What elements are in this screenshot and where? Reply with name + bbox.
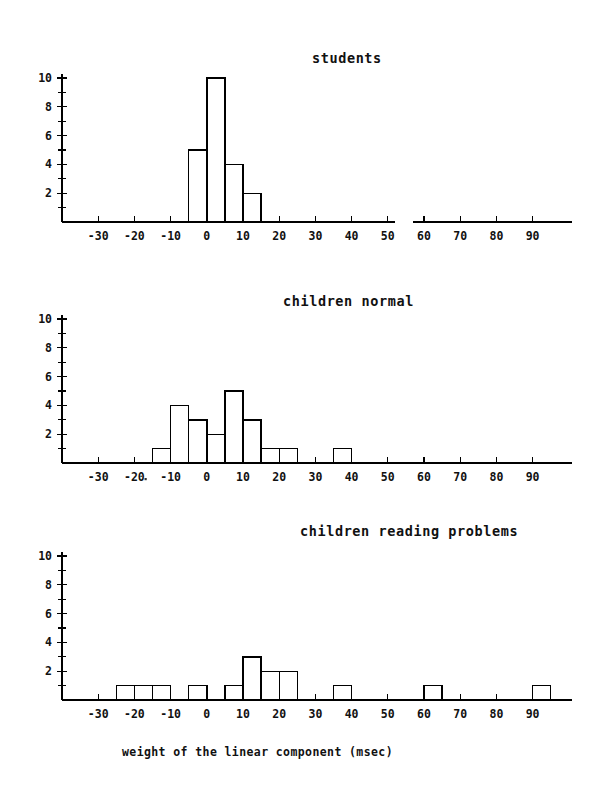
x-tick-label: 40 bbox=[345, 229, 359, 243]
x-tick-label: 50 bbox=[381, 470, 395, 484]
x-tick-label: 70 bbox=[453, 470, 467, 484]
bars-group bbox=[116, 657, 550, 700]
x-tick-label: 90 bbox=[526, 229, 540, 243]
y-tick-label: 2 bbox=[45, 664, 52, 678]
y-tick-label: 4 bbox=[45, 157, 52, 171]
y-tick-label: 10 bbox=[38, 71, 52, 85]
histogram-bar bbox=[225, 686, 243, 700]
histogram-bar bbox=[225, 391, 243, 463]
x-tick-label: -20 bbox=[124, 470, 145, 484]
histogram-bar bbox=[207, 434, 225, 463]
histogram-bar bbox=[243, 657, 261, 700]
bars-group bbox=[153, 391, 352, 463]
histogram-bar bbox=[189, 150, 207, 222]
y-tick-label: 4 bbox=[45, 398, 52, 412]
x-tick-label: 70 bbox=[453, 229, 467, 243]
x-tick-label: 10 bbox=[236, 707, 250, 721]
y-tick-label: 8 bbox=[45, 341, 52, 355]
x-tick-label: 30 bbox=[308, 470, 322, 484]
x-tick-label: 0 bbox=[203, 229, 210, 243]
x-tick-label: 20 bbox=[272, 229, 286, 243]
y-tick-label: 2 bbox=[45, 186, 52, 200]
histogram-bar bbox=[153, 449, 171, 463]
x-tick-label: 30 bbox=[308, 229, 322, 243]
x-tick-label: -30 bbox=[88, 229, 109, 243]
bars-group bbox=[189, 78, 261, 222]
histogram-bar bbox=[189, 686, 207, 700]
x-tick-label: 0 bbox=[203, 707, 210, 721]
scan-artifact bbox=[145, 478, 147, 480]
x-tick-label: 50 bbox=[381, 707, 395, 721]
histogram-bar bbox=[279, 449, 297, 463]
histogram-bar bbox=[116, 686, 134, 700]
x-tick-label: 40 bbox=[345, 707, 359, 721]
x-tick-label: 60 bbox=[417, 229, 431, 243]
x-tick-label: 40 bbox=[345, 470, 359, 484]
histogram-bar bbox=[243, 420, 261, 463]
histogram-bar bbox=[153, 686, 171, 700]
y-tick-label: 6 bbox=[45, 129, 52, 143]
histogram-panel-0: 246810-30-20-100102030405060708090 bbox=[0, 70, 604, 292]
x-tick-label: 50 bbox=[381, 229, 395, 243]
x-tick-label: 30 bbox=[308, 707, 322, 721]
x-tick-label: -20 bbox=[124, 707, 145, 721]
y-tick-label: 10 bbox=[38, 312, 52, 326]
x-tick-label: 0 bbox=[203, 470, 210, 484]
panel-title-2: children reading problems bbox=[300, 523, 518, 539]
histogram-bar bbox=[533, 686, 551, 700]
panel-title-1: children normal bbox=[283, 293, 414, 309]
x-tick-label: -10 bbox=[160, 229, 181, 243]
x-tick-label: 60 bbox=[417, 470, 431, 484]
x-tick-label: -30 bbox=[88, 707, 109, 721]
histogram-bar bbox=[279, 671, 297, 700]
y-tick-label: 6 bbox=[45, 607, 52, 621]
x-tick-label: 10 bbox=[236, 229, 250, 243]
x-tick-label: 80 bbox=[489, 229, 503, 243]
y-tick-label: 8 bbox=[45, 100, 52, 114]
x-tick-label: 80 bbox=[489, 707, 503, 721]
panel-title-0: students bbox=[312, 50, 382, 66]
x-tick-label: -10 bbox=[160, 707, 181, 721]
histogram-bar bbox=[261, 449, 279, 463]
histogram-bar bbox=[225, 164, 243, 222]
x-tick-label: 10 bbox=[236, 470, 250, 484]
histogram-bar bbox=[424, 686, 442, 700]
x-tick-label: -20 bbox=[124, 229, 145, 243]
histogram-bar bbox=[207, 78, 225, 222]
histogram-bar bbox=[334, 686, 352, 700]
x-tick-label: 80 bbox=[489, 470, 503, 484]
histogram-panel-1: 246810-30-20-100102030405060708090 bbox=[0, 311, 604, 533]
histogram-bar bbox=[261, 671, 279, 700]
y-tick-label: 4 bbox=[45, 635, 52, 649]
y-tick-label: 10 bbox=[38, 549, 52, 563]
x-tick-label: 20 bbox=[272, 707, 286, 721]
x-tick-label: -10 bbox=[160, 470, 181, 484]
x-tick-label: 90 bbox=[526, 707, 540, 721]
x-tick-label: 60 bbox=[417, 707, 431, 721]
x-tick-label: 90 bbox=[526, 470, 540, 484]
histogram-figure: students246810-30-20-1001020304050607080… bbox=[0, 0, 604, 794]
histogram-bar bbox=[243, 193, 261, 222]
histogram-bar bbox=[334, 449, 352, 463]
x-tick-label: -30 bbox=[88, 470, 109, 484]
x-tick-label: 70 bbox=[453, 707, 467, 721]
x-axis-label: weight of the linear component (msec) bbox=[122, 745, 393, 759]
y-tick-label: 2 bbox=[45, 427, 52, 441]
histogram-bar bbox=[171, 405, 189, 463]
histogram-panel-2: 246810-30-20-100102030405060708090 bbox=[0, 548, 604, 770]
histogram-bar bbox=[134, 686, 152, 700]
x-tick-label: 20 bbox=[272, 470, 286, 484]
y-tick-label: 8 bbox=[45, 578, 52, 592]
histogram-bar bbox=[189, 420, 207, 463]
y-tick-label: 6 bbox=[45, 370, 52, 384]
